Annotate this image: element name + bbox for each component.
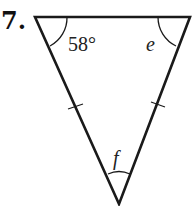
angle-label-e: e	[146, 33, 155, 55]
triangle-outline	[35, 17, 190, 204]
isosceles-triangle-diagram: 58° e f	[0, 0, 195, 206]
angle-arc-bottom	[108, 172, 130, 175]
angle-arc-top-right	[158, 17, 176, 46]
angle-arc-top-left	[50, 17, 67, 46]
angle-label-f: f	[113, 147, 121, 170]
angle-label-58: 58°	[68, 33, 96, 55]
